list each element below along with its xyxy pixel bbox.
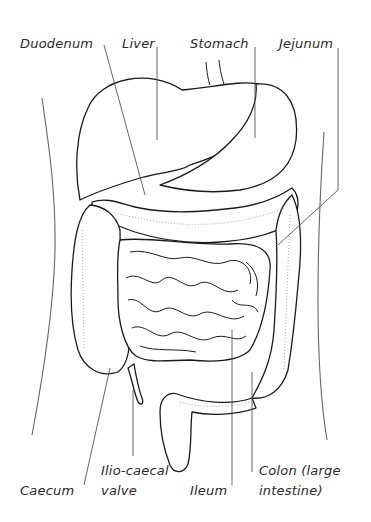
transverse-colon bbox=[92, 188, 298, 243]
appendix bbox=[128, 364, 143, 404]
label-stomach: Stomach bbox=[190, 36, 249, 51]
label-ileum: Ileum bbox=[190, 483, 227, 498]
esophagus bbox=[206, 60, 224, 85]
label-ilio-caecal-line1: Ilio-caecal bbox=[101, 463, 169, 478]
body-outline-left bbox=[32, 98, 55, 435]
label-colon-line1: Colon (large bbox=[259, 463, 341, 478]
label-colon-line2: intestine) bbox=[259, 483, 323, 498]
anatomy-diagram: Duodenum Liver Stomach Jejunum Caecum Il… bbox=[0, 0, 371, 522]
label-caecum: Caecum bbox=[20, 483, 74, 498]
small-intestine-mass bbox=[118, 239, 271, 361]
body-outline-right bbox=[318, 132, 327, 440]
label-duodenum: Duodenum bbox=[20, 36, 93, 51]
label-jejunum: Jejunum bbox=[279, 36, 333, 51]
label-ilio-caecal-line2: valve bbox=[101, 483, 137, 498]
label-liver: Liver bbox=[122, 36, 155, 51]
organs-illustration bbox=[0, 0, 371, 522]
sigmoid-colon bbox=[160, 394, 256, 472]
